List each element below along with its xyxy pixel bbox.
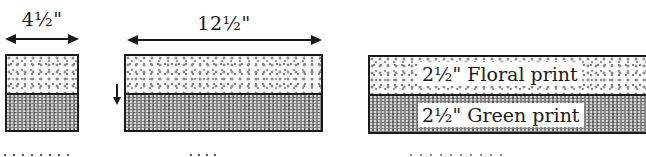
clipped-caption-middle [190, 150, 230, 157]
left-width-arrow [7, 38, 77, 40]
middle-width-label: 12½" [125, 13, 323, 33]
green-strip [7, 95, 77, 130]
left-strip-set [5, 54, 79, 132]
middle-width-arrow [129, 39, 320, 41]
floral-strip [126, 56, 321, 93]
clipped-caption-right [410, 151, 520, 157]
floral-strip [7, 56, 77, 93]
press-direction-arrow-icon [116, 84, 118, 101]
clipped-caption-left [4, 150, 84, 157]
green-strip [126, 95, 321, 130]
green-strip-label: 2½" Green print [418, 103, 584, 127]
left-width-label: 4½" [5, 9, 79, 29]
floral-strip-label: 2½" Floral print [418, 62, 582, 86]
middle-strip-set [124, 54, 323, 132]
